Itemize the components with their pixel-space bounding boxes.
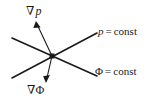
diagram-canvas	[0, 0, 157, 110]
label-phi-const-equals: =	[103, 65, 113, 77]
label-p-const-equals: =	[104, 25, 114, 37]
label-p-const-value: const	[114, 25, 137, 37]
intersection-point-marker	[50, 54, 55, 59]
label-grad-p-symbol: p	[34, 4, 41, 18]
figure-background	[0, 0, 157, 110]
label-phi-const-value: const	[113, 65, 136, 77]
label-phi-const-symbol: Φ	[95, 65, 103, 77]
label-phi-const: Φ=const	[95, 66, 137, 77]
label-grad-p: ∇p	[26, 5, 41, 17]
label-p-const-symbol: p	[97, 25, 104, 37]
gradient-diagram-figure: ∇p ∇Φ p=const Φ=const	[0, 0, 157, 110]
label-p-const: p=const	[97, 26, 137, 37]
label-grad-phi: ∇Φ	[27, 84, 44, 96]
label-grad-phi-symbol: Φ	[35, 83, 44, 97]
